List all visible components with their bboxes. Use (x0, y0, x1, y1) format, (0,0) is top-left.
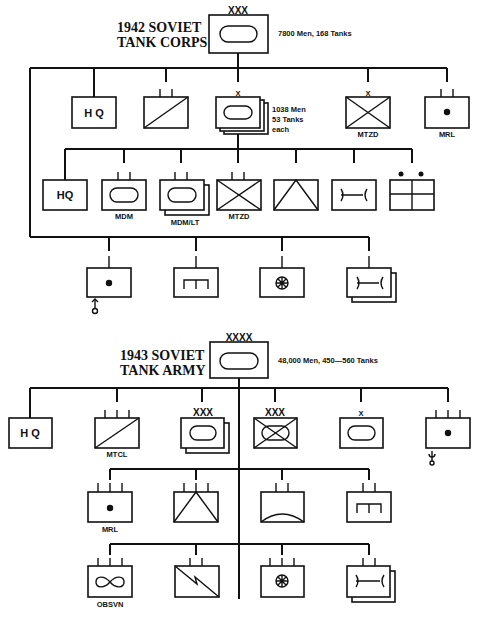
corps-mrl-battalion[interactable]: MRL (425, 89, 469, 139)
army-mrl-regiment[interactable]: MRL (88, 483, 132, 534)
army-observation-battalion[interactable]: OBSVN (88, 558, 132, 609)
brigade-note-men: 1038 Men (272, 105, 306, 114)
medium-tank-battalion[interactable]: MDM (102, 172, 146, 221)
army-mechanized-corps[interactable]: XXX (254, 407, 297, 448)
svg-text:X: X (358, 409, 363, 418)
anti-tank-icon (429, 451, 435, 465)
mrl-label: MRL (439, 130, 456, 139)
org-chart-canvas: 1942 SOVIET TANK CORPS XXX 7800 Men, 168… (0, 0, 485, 620)
corps-hq-box[interactable]: H Q (72, 97, 116, 128)
corps-signal-battalion[interactable] (144, 89, 188, 128)
unit-box (209, 15, 268, 53)
brigade-hq-box[interactable]: HQ (43, 180, 87, 210)
army-section: 1943 SOVIET TANK ARMY XXXX 48,000 Men, 4… (9, 332, 470, 609)
repair-units-stacked[interactable] (347, 268, 396, 302)
svg-text:H Q: H Q (20, 427, 40, 439)
army-engineer-regiment[interactable] (174, 483, 218, 522)
army-signal-regiment[interactable]: MTCL (95, 410, 139, 459)
army-title-line1: 1943 SOVIET (120, 348, 205, 363)
army-hq-unit[interactable]: XXXX (210, 332, 268, 378)
brigade-note-each: each (272, 125, 290, 134)
svg-text:XXX: XXX (193, 407, 213, 418)
army-engineer-battalion[interactable] (347, 483, 391, 522)
maintenance-company[interactable] (332, 180, 376, 210)
medium-light-tank-battalions[interactable]: MDM/LT (160, 172, 209, 227)
svg-text:MTZD: MTZD (229, 212, 250, 221)
corps-motorized-brigade[interactable]: X MTZD (346, 89, 390, 139)
army-tank-brigade[interactable]: X (340, 409, 383, 448)
anti-aircraft-battery[interactable] (87, 268, 131, 314)
army-repair-units-stacked[interactable] (347, 558, 395, 602)
engineer-company[interactable] (274, 180, 318, 210)
corps-title-line1: 1942 SOVIET (117, 20, 202, 35)
army-title-line2: TANK ARMY (120, 363, 206, 378)
hq-label: H Q (84, 107, 104, 119)
svg-text:MDM/LT: MDM/LT (171, 218, 200, 227)
svg-text:MDM: MDM (115, 212, 133, 221)
army-hq-box[interactable]: H Q (9, 418, 52, 448)
army-arc-battalion[interactable] (261, 483, 304, 522)
corps-hq-unit[interactable]: XXX (209, 5, 268, 53)
army-tank-corps-stacked[interactable]: XXX (181, 407, 229, 453)
svg-text:XXX: XXX (265, 407, 285, 418)
army-signal-battalion[interactable] (175, 558, 219, 597)
army-artillery-regiment[interactable] (426, 410, 470, 465)
medical-unit[interactable] (260, 268, 304, 297)
corps-section: 1942 SOVIET TANK CORPS XXX 7800 Men, 168… (30, 5, 469, 314)
corps-title-line2: TANK CORPS (117, 35, 208, 50)
corps-tank-brigades[interactable]: X (216, 89, 268, 134)
support-company[interactable] (390, 172, 434, 211)
brigade-note-tanks: 53 Tanks (272, 115, 304, 124)
svg-text:HQ: HQ (57, 189, 74, 201)
anti-aircraft-icon (92, 299, 98, 314)
motorized-rifle-battalion[interactable]: MTZD (217, 172, 261, 221)
army-medical-battalion[interactable] (261, 558, 304, 597)
engineer-company-corps[interactable] (174, 268, 218, 297)
svg-text:OBSVN: OBSVN (97, 600, 124, 609)
army-strength: 48,000 Men, 450—560 Tanks (278, 356, 378, 365)
svg-text:MTCL: MTCL (107, 450, 128, 459)
corps-strength: 7800 Men, 168 Tanks (278, 29, 352, 38)
artillery-dot-icon (444, 109, 450, 115)
svg-text:MRL: MRL (102, 525, 119, 534)
mtzd-label: MTZD (358, 130, 379, 139)
